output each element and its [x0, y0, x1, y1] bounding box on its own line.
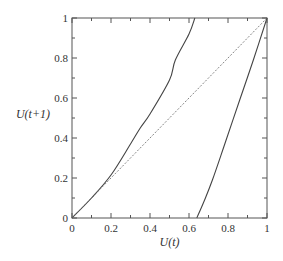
y-tick-label: 1 [63, 12, 69, 24]
x-tick-label: 0.4 [143, 222, 157, 234]
x-tick-label: 0.8 [221, 222, 235, 234]
data-series [72, 18, 267, 218]
y-tick-label: 0.6 [54, 92, 68, 104]
x-tick-label: 1 [264, 222, 270, 234]
map-left-branch-line [72, 18, 195, 218]
y-axis-label: U(t+1) [16, 107, 50, 121]
x-tick-labels: 00.20.40.60.81 [69, 222, 270, 234]
x-tick-label: 0.2 [104, 222, 118, 234]
x-tick-label: 0.6 [182, 222, 196, 234]
chart: 00.20.40.60.81 00.20.40.60.81 U(t) U(t+1… [0, 0, 283, 261]
axis-ticks [72, 18, 267, 218]
y-tick-label: 0 [63, 212, 69, 224]
map-right-branch-line [197, 18, 267, 218]
x-axis-label: U(t) [160, 235, 180, 249]
x-tick-label: 0 [69, 222, 75, 234]
identity-diagonal-line [72, 18, 267, 218]
y-tick-labels: 00.20.40.60.81 [54, 12, 68, 224]
y-tick-label: 0.2 [54, 172, 68, 184]
y-tick-label: 0.8 [54, 52, 68, 64]
y-tick-label: 0.4 [54, 132, 68, 144]
plot-frame [72, 18, 267, 218]
